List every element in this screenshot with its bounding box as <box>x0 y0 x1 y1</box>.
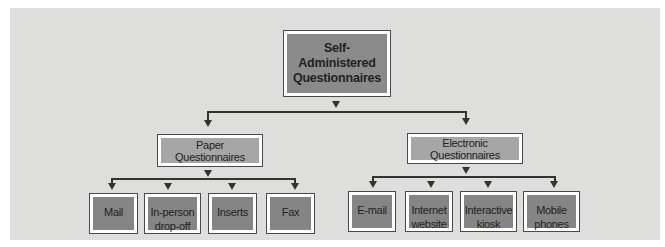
leaf-node: Mail <box>89 193 138 234</box>
arrow-down-icon <box>462 118 470 125</box>
arrow-down-icon <box>204 120 212 127</box>
arrow-down-icon <box>427 181 435 188</box>
arrow-down-icon <box>550 181 558 188</box>
arrow-down-icon <box>462 167 470 174</box>
arrow-down-icon <box>108 183 116 190</box>
leaf-label: E-mail <box>357 203 386 217</box>
leaf-label: Fax <box>282 205 299 219</box>
leaf-label: drop-off <box>151 219 195 233</box>
leaf-node: Interactive kiosk <box>460 191 517 232</box>
arrow-down-icon <box>204 170 212 177</box>
leaf-label: Mail <box>104 205 123 219</box>
root-node: Self-Administered Questionnaires <box>283 30 391 97</box>
leaf-node: E-mail <box>348 191 396 232</box>
connector-line <box>111 178 296 180</box>
leaf-label: Interactive <box>465 203 512 217</box>
branch-label: Electronic Questionnaires <box>411 137 519 160</box>
connector-line <box>372 176 556 178</box>
arrow-down-icon <box>332 101 340 108</box>
arrow-down-icon <box>164 183 172 190</box>
branch-label: Paper Questionnaires <box>161 138 259 163</box>
leaf-label: kiosk <box>465 217 512 231</box>
leaf-node: Mobile phones <box>523 191 580 232</box>
leaf-label: Inserts <box>217 205 248 219</box>
leaf-label: Mobile <box>534 203 568 217</box>
leaf-node: In-person drop-off <box>144 193 201 234</box>
leaf-label: phones <box>534 217 568 231</box>
leaf-node: Fax <box>266 193 315 234</box>
leaf-node: Inserts <box>208 193 257 234</box>
arrow-down-icon <box>291 183 299 190</box>
connector-line <box>207 111 467 113</box>
branch-node-paper: Paper Questionnaires <box>157 134 263 167</box>
leaf-node: Internet website <box>405 191 453 232</box>
root-node-label: Self-Administered Questionnaires <box>287 34 387 93</box>
leaf-label: website <box>411 217 446 231</box>
arrow-down-icon <box>484 181 492 188</box>
root-label-line2: Questionnaires <box>287 71 387 86</box>
leaf-label: In-person <box>151 205 195 219</box>
leaf-label: Internet <box>411 203 446 217</box>
branch-node-electronic: Electronic Questionnaires <box>407 133 523 164</box>
arrow-down-icon <box>369 181 377 188</box>
arrow-down-icon <box>228 183 236 190</box>
root-label-line1: Self-Administered <box>287 41 387 71</box>
